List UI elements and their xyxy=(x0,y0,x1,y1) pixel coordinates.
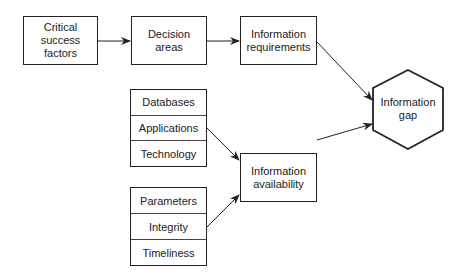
applications-cell: Applications xyxy=(131,116,206,142)
arrow-integrity-to-availability xyxy=(207,195,239,227)
information-availability-label: Information availability xyxy=(251,165,306,191)
timeliness-cell: Timeliness xyxy=(131,240,206,265)
critical-success-factors-label: Critical success factors xyxy=(41,21,81,60)
technology-cell: Technology xyxy=(131,141,206,166)
systems-stack: Databases Applications Technology xyxy=(130,89,207,167)
integrity-cell: Integrity xyxy=(131,214,206,240)
information-availability-box: Information availability xyxy=(240,153,317,202)
arrow-availability-to-gap xyxy=(317,124,372,140)
critical-success-factors-box: Critical success factors xyxy=(23,16,98,65)
decision-areas-box: Decision areas xyxy=(131,16,207,65)
quality-stack: Parameters Integrity Timeliness xyxy=(130,187,207,266)
information-requirements-label: Information requirements xyxy=(246,28,310,54)
arrow-requirements-to-gap xyxy=(317,42,372,100)
decision-areas-label: Decision areas xyxy=(148,28,190,54)
parameters-cell: Parameters xyxy=(131,188,206,214)
databases-cell: Databases xyxy=(131,90,206,116)
information-requirements-box: Information requirements xyxy=(240,16,317,65)
information-gap-label: Information gap xyxy=(373,96,443,122)
arrow-applications-to-availability xyxy=(207,128,239,160)
